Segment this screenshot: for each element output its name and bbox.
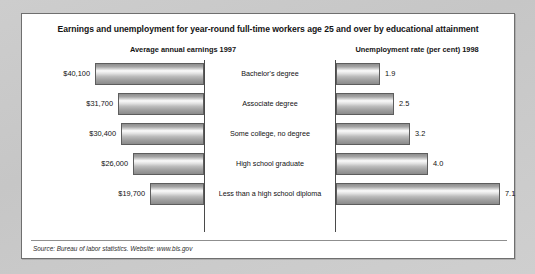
category-label: High school graduate <box>205 159 335 168</box>
chart-row: $31,700Associate degree2.5 <box>22 90 514 120</box>
earnings-bar <box>133 153 204 175</box>
chart-row: $40,100Bachelor's degree1.9 <box>22 60 514 90</box>
category-label: Bachelor's degree <box>205 69 335 78</box>
category-label: Associate degree <box>205 99 335 108</box>
unemployment-bar <box>336 63 380 85</box>
earnings-value-label: $40,100 <box>24 69 90 78</box>
unemployment-value-label: 4.0 <box>433 159 443 168</box>
unemployment-bar <box>336 93 394 115</box>
footer-divider <box>31 240 507 241</box>
unemployment-value-label: 2.5 <box>399 99 409 108</box>
earnings-bar <box>121 123 204 145</box>
unemployment-value-label: 1.9 <box>385 69 395 78</box>
earnings-bar <box>118 93 204 115</box>
earnings-bar <box>150 183 204 205</box>
unemployment-bar <box>336 123 410 145</box>
category-label: Less than a high school diploma <box>205 189 335 198</box>
earnings-value-label: $31,700 <box>24 99 113 108</box>
unemployment-bar <box>336 153 428 175</box>
category-label: Some college, no degree <box>205 129 335 138</box>
source-note: Source: Bureau of labor statistics. Webs… <box>33 245 192 252</box>
earnings-bar <box>95 63 204 85</box>
unemployment-bar <box>336 183 500 205</box>
plot-area: $40,100Bachelor's degree1.9$31,700Associ… <box>22 14 514 258</box>
unemployment-value-label: 3.2 <box>415 129 425 138</box>
earnings-value-label: $26,000 <box>24 159 128 168</box>
earnings-value-label: $30,400 <box>24 129 116 138</box>
chart-row: $26,000High school graduate4.0 <box>22 150 514 180</box>
chart-panel: Earnings and unemployment for year-round… <box>21 13 515 259</box>
unemployment-value-label: 7.1 <box>505 189 515 198</box>
chart-page: Earnings and unemployment for year-round… <box>0 0 535 274</box>
chart-row: $19,700Less than a high school diploma7.… <box>22 180 514 210</box>
chart-row: $30,400Some college, no degree3.2 <box>22 120 514 150</box>
earnings-value-label: $19,700 <box>24 189 145 198</box>
